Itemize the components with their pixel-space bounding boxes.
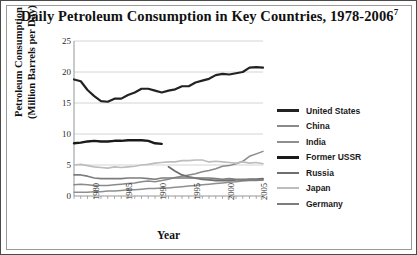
legend-item-label: Russia [306, 168, 334, 178]
y-tick-label: 5 [51, 160, 71, 170]
x-axis-title: Year [74, 229, 263, 241]
x-tick-label: 1995 [192, 183, 202, 200]
y-tick-label: 0 [51, 191, 71, 201]
plot-area [74, 41, 263, 196]
chart-figure: Daily Petroleum Consumption in Key Count… [0, 0, 417, 255]
legend-item[interactable]: Russia [277, 165, 407, 181]
y-tick-label: 15 [51, 98, 71, 108]
axis-lines [74, 41, 263, 196]
y-axis-title: Petroleum Consumption (Million Barrels p… [12, 0, 38, 132]
y-axis-title-line2: (Million Barrels per Day) [25, 0, 38, 132]
legend-item[interactable]: India [277, 134, 407, 150]
data-series-group [74, 67, 263, 192]
x-tick-label: 2000 [226, 183, 236, 200]
gridlines [74, 41, 263, 165]
legend-item-label: United States [306, 106, 360, 116]
legend-swatch-line-icon [277, 109, 299, 112]
x-tick-label: 1990 [158, 183, 168, 200]
legend-swatch-line-icon [277, 125, 299, 127]
x-tick-label: 1985 [124, 183, 134, 200]
legend-item-label: Former USSR [306, 152, 361, 162]
chart-title-text: Daily Petroleum Consumption in Key Count… [21, 8, 394, 24]
y-axis-tick-labels: 0510152025 [49, 41, 71, 196]
legend-item-label: Germany [306, 199, 343, 209]
legend-item[interactable]: China [277, 119, 407, 135]
legend-swatch-line-icon [277, 141, 299, 143]
legend-swatch-line-icon [277, 172, 299, 174]
x-tick-label: 1980 [91, 183, 101, 200]
chart-legend: United StatesChinaIndiaFormer USSRRussia… [277, 103, 407, 212]
series-line [74, 140, 162, 144]
legend-item-label: China [306, 121, 330, 131]
plot-svg [74, 41, 263, 196]
y-tick-label: 20 [51, 67, 71, 77]
legend-item[interactable]: Germany [277, 196, 407, 212]
legend-item[interactable]: Former USSR [277, 150, 407, 166]
legend-swatch-line-icon [277, 156, 299, 159]
y-tick-label: 10 [51, 129, 71, 139]
chart-title-footnote-marker: 7 [394, 7, 399, 17]
legend-item[interactable]: United States [277, 103, 407, 119]
legend-item[interactable]: Japan [277, 181, 407, 197]
x-axis-tick-labels: 198019851990199520002005 [74, 198, 263, 232]
legend-item-label: India [306, 137, 326, 147]
chart-title: Daily Petroleum Consumption in Key Count… [1, 7, 417, 25]
legend-item-label: Japan [306, 183, 331, 193]
y-tick-label: 25 [51, 36, 71, 46]
legend-swatch-line-icon [277, 203, 299, 205]
x-tick-label: 2005 [259, 183, 269, 200]
legend-swatch-line-icon [277, 187, 299, 189]
y-axis-title-line1: Petroleum Consumption [12, 0, 25, 132]
